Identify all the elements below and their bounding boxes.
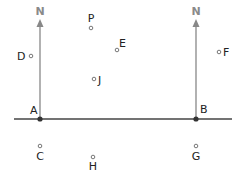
label-j: J [97, 74, 101, 87]
label-b: B [200, 103, 208, 116]
label-h: H [89, 160, 97, 173]
label-a: A [30, 104, 38, 117]
arrowhead-icon [193, 19, 200, 27]
point-a [37, 116, 42, 121]
bearing-diagram: N N A B P E D J F C H G [0, 0, 242, 178]
label-f: F [223, 46, 229, 59]
point-f [217, 50, 221, 54]
point-d [29, 54, 33, 58]
arrowhead-icon [37, 19, 44, 27]
point-h [91, 155, 95, 159]
north-label-b: N [191, 5, 200, 18]
label-p: P [88, 12, 95, 25]
point-b [193, 116, 198, 121]
point-j [92, 77, 96, 81]
point-p [89, 26, 93, 30]
north-label-a: N [35, 5, 44, 18]
point-g [194, 144, 198, 148]
label-g: G [192, 150, 201, 163]
label-c: C [36, 150, 44, 163]
label-e: E [119, 37, 126, 50]
north-arrow-a: N [35, 5, 44, 119]
point-c [38, 144, 42, 148]
north-arrow-b: N [191, 5, 200, 119]
label-d: D [17, 50, 25, 63]
